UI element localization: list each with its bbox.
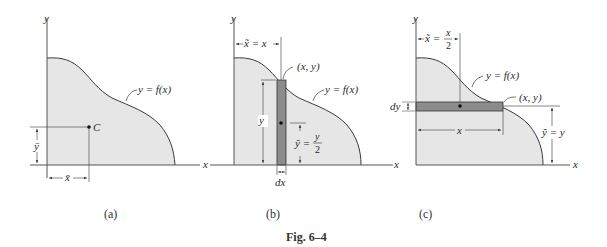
y-axis-label: y [412, 12, 418, 24]
curve-label: y = f(x) [137, 83, 171, 96]
point-label: (x, y) [519, 91, 542, 104]
height-label: y [258, 114, 264, 126]
ytilde-denominator: 2 [315, 144, 320, 155]
xtilde-numerator: x [445, 27, 451, 38]
centroid-point [87, 125, 91, 129]
shaded-region [416, 58, 543, 165]
y-axis-label: y [230, 12, 236, 24]
centroid-label: C [93, 121, 101, 133]
ytilde-label: ỹ = y [541, 126, 565, 138]
dx-label: dx [275, 176, 286, 188]
shaded-region [47, 58, 175, 165]
xtilde-label: x̃ = x [243, 37, 267, 49]
xtilde-denominator: 2 [446, 40, 451, 51]
panel-c: y x x̃ = x 2 y = f(x) (x, y) ỹ = y x dy [390, 12, 578, 170]
y-axis-label: y [43, 12, 49, 24]
curve-label: y = f(x) [485, 69, 519, 82]
xbar-label: x̄ [64, 171, 70, 183]
figure-6-4: y x C ȳ x̄ y = f(x) y x x̃ = x (x, y) [0, 0, 607, 247]
x-axis-label: x [393, 158, 399, 170]
length-label: x [456, 124, 462, 136]
panel-b: y x x̃ = x (x, y) y = f(x) y ỹ = y 2 dx [210, 12, 399, 188]
dy-label: dy [390, 100, 401, 112]
x-axis-label: x [202, 158, 208, 170]
strip-centroid [279, 121, 283, 125]
xtilde-lhs: x̃ = [424, 32, 440, 44]
panel-b-label: (b) [266, 207, 280, 222]
panel-c-label: (c) [419, 207, 432, 222]
panel-a: y x C ȳ x̄ y = f(x) [30, 12, 208, 183]
point-label: (x, y) [297, 60, 320, 73]
figure-caption: Fig. 6–4 [286, 230, 327, 245]
ytilde-numerator: y [314, 131, 320, 142]
x-axis-label: x [572, 158, 578, 170]
panel-a-label: (a) [104, 207, 117, 222]
strip-centroid [458, 104, 462, 108]
ytilde-lhs: ỹ = [294, 137, 310, 149]
curve-label: y = f(x) [324, 83, 358, 96]
